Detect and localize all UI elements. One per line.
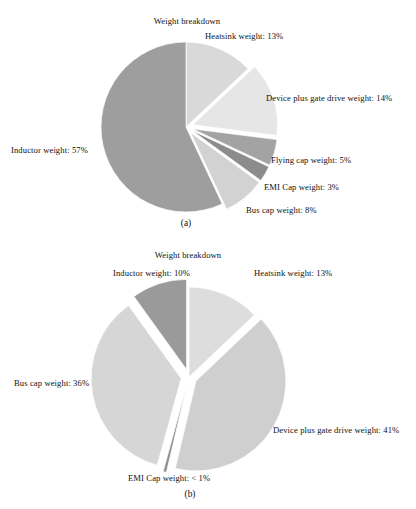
chart-b-label-inductor: Inductor weight: 10% xyxy=(113,268,190,278)
chart-b-label-heatsink: Heatsink weight: 13% xyxy=(254,268,332,278)
chart-b-label-device: Device plus gate drive weight: 41% xyxy=(273,425,399,435)
chart-b-label-emi: EMI Cap weight: < 1% xyxy=(128,473,210,483)
chart-a-caption: (a) xyxy=(156,218,216,228)
chart-a-title: Weight breakdown xyxy=(147,16,227,26)
weight-breakdown-figure: Weight breakdown Heatsink weight: 13% De… xyxy=(0,0,416,509)
chart-a-label-heatsink: Heatsink weight: 13% xyxy=(205,31,283,41)
chart-a-label-device: Device plus gate drive weight: 14% xyxy=(266,93,392,103)
chart-a-label-inductor: Inductor weight: 57% xyxy=(11,145,88,155)
chart-a-label-bus: Bus cap weight: 8% xyxy=(246,205,317,215)
chart-a-label-emi: EMI Cap weight: 3% xyxy=(264,182,339,192)
chart-b-label-bus: Bus cap weight: 36% xyxy=(14,378,89,388)
chart-b-title: Weight breakdown xyxy=(148,250,228,260)
pie-chart-b xyxy=(0,239,416,509)
chart-b-caption: (b) xyxy=(160,489,220,499)
chart-a-label-flying: Flying cap weight: 5% xyxy=(271,155,351,165)
